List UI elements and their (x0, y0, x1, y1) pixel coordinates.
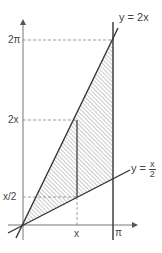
tick-pi: π (115, 228, 122, 238)
label-y-x-half-prefix: y = (131, 162, 146, 174)
fraction: x 2 (149, 160, 156, 179)
diagram-canvas (0, 0, 162, 253)
label-y-x-half: y = x 2 (131, 160, 156, 179)
tick-x: x (74, 229, 79, 239)
tick-x-half: x/2 (3, 192, 16, 202)
tick-2x: 2x (8, 115, 19, 125)
diagram: y = 2x y = x 2 2π 2x x/2 x π (0, 0, 162, 253)
tick-2pi: 2π (8, 35, 20, 45)
label-y-2x: y = 2x (119, 12, 149, 23)
fraction-denominator: 2 (150, 170, 155, 179)
